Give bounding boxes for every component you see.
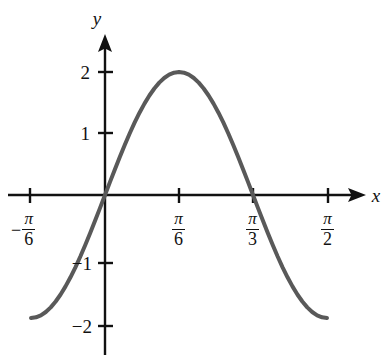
- y-tick-label-1: 1: [81, 123, 91, 144]
- fraction-denominator: 2: [321, 230, 334, 250]
- x-tick-label-pi-over-6: π 6: [172, 210, 185, 250]
- fraction-numerator: π: [172, 210, 185, 228]
- x-axis-label: x: [371, 185, 381, 206]
- fraction-denominator: 6: [172, 230, 185, 250]
- fraction-numerator: π: [321, 210, 334, 228]
- fraction-numerator: π: [246, 210, 259, 228]
- fraction-denominator: 3: [246, 230, 259, 250]
- x-tick-label-neg-pi-over-6: − π 6: [11, 210, 35, 250]
- x-tick-label-pi-over-3: π 3: [246, 210, 259, 250]
- trigonometric-graph: 2 1 −1 −2 y x − π 6 π 6 π 3 π: [0, 0, 388, 363]
- y-axis-label: y: [91, 8, 102, 29]
- y-tick-label-neg-1: −1: [72, 253, 92, 274]
- fraction-numerator: π: [22, 210, 35, 228]
- plot-canvas: 2 1 −1 −2 y x: [0, 0, 388, 363]
- minus-sign: −: [11, 210, 22, 239]
- y-tick-label-2: 2: [81, 62, 91, 83]
- x-tick-label-pi-over-2: π 2: [321, 210, 334, 250]
- fraction-denominator: 6: [22, 230, 35, 250]
- y-tick-label-neg-2: −2: [72, 316, 92, 337]
